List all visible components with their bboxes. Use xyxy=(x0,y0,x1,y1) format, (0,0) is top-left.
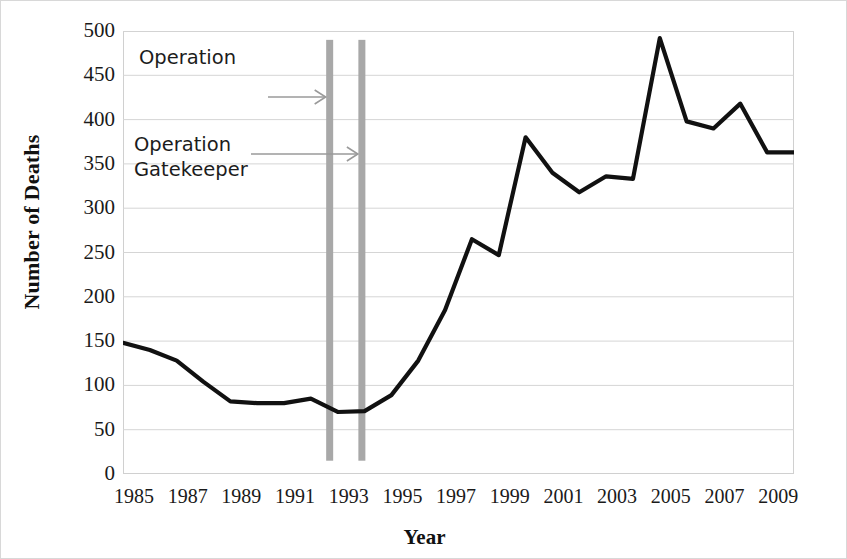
x-tick-label: 2009 xyxy=(743,485,813,507)
y-tick-label: 300 xyxy=(49,197,115,218)
x-axis-title: Year xyxy=(1,525,847,550)
y-tick-label: 50 xyxy=(49,419,115,440)
x-axis-tick-labels: 1985198719891991199319951997199920012003… xyxy=(1,485,847,515)
plot-area xyxy=(123,31,794,474)
y-tick-label: 400 xyxy=(49,109,115,130)
y-tick-label: 150 xyxy=(49,330,115,351)
chart-figure: Number of Deaths 50045040035030025020015… xyxy=(0,0,847,559)
annotation-operation-gatekeeper-label: Operation Gatekeeper xyxy=(134,132,248,182)
annotation-operation-label: Operation xyxy=(139,45,236,70)
chart-canvas xyxy=(123,31,794,474)
event-marker-line xyxy=(358,40,365,461)
y-tick-label: 250 xyxy=(49,242,115,263)
y-tick-label: 100 xyxy=(49,374,115,395)
y-tick-label: 350 xyxy=(49,153,115,174)
y-axis-tick-labels: 500450400350300250200150100500 xyxy=(41,1,115,559)
y-tick-label: 450 xyxy=(49,64,115,85)
y-tick-label: 0 xyxy=(49,463,115,484)
y-tick-label: 200 xyxy=(49,286,115,307)
event-marker-line xyxy=(326,40,333,461)
y-tick-label: 500 xyxy=(49,20,115,41)
